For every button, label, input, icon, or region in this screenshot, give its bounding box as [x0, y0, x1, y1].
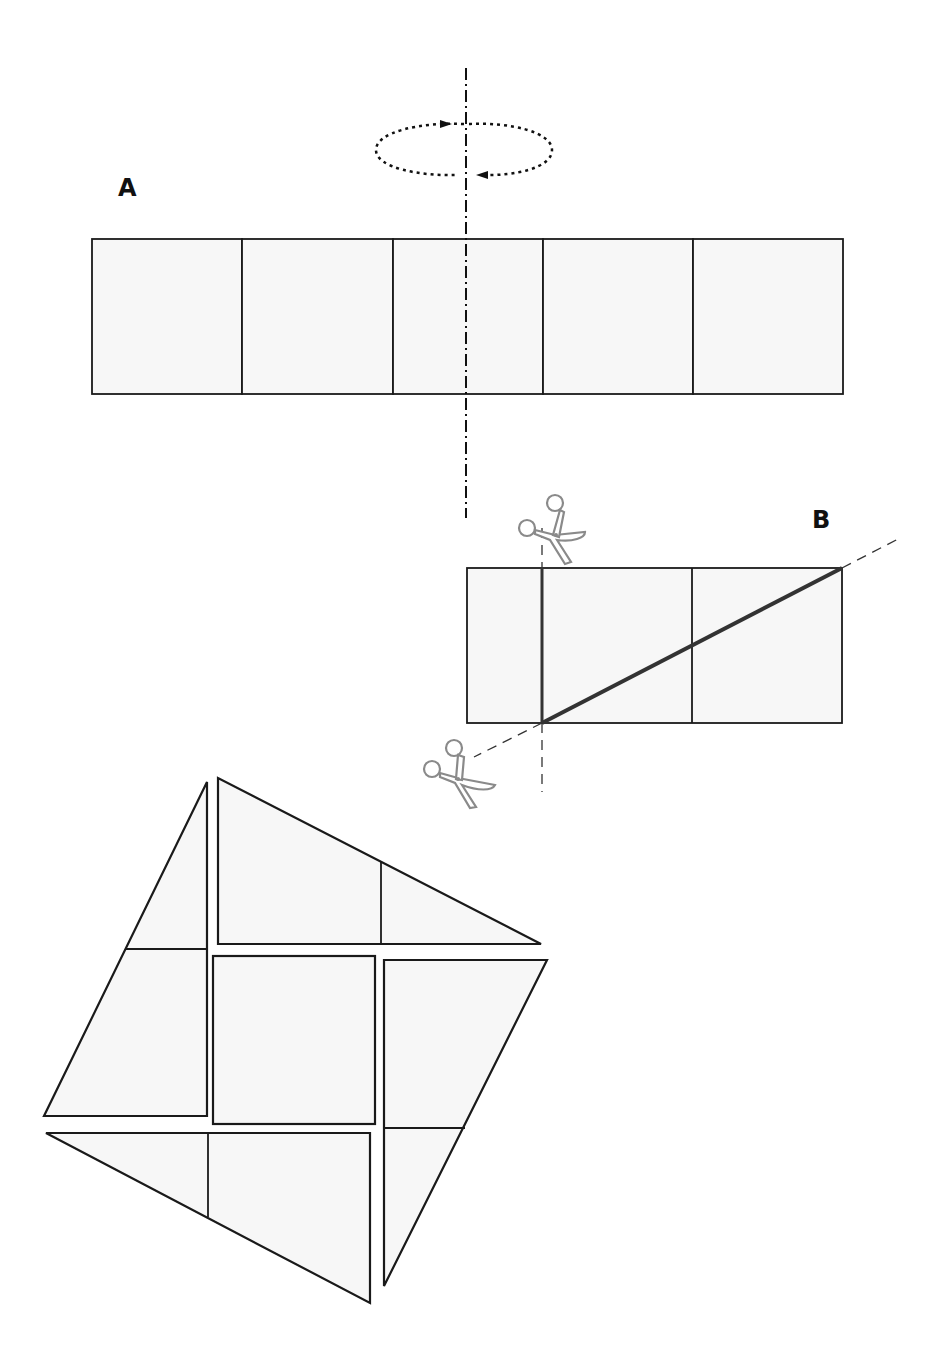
scissors-icon	[519, 495, 585, 564]
figure-b-strip	[467, 568, 842, 723]
tangram-top-triangle	[218, 778, 541, 944]
diagonal-cut-guide-top	[842, 538, 900, 568]
strip-a-square-4	[543, 239, 693, 394]
diagonal-cut-guide-bottom	[474, 723, 542, 757]
strip-a-square-1	[92, 239, 242, 394]
tangram-center-square	[213, 956, 375, 1124]
tangram-right-piece	[384, 960, 547, 1286]
scissors-icon	[424, 740, 495, 808]
rotation-arrow-icon	[376, 120, 552, 179]
diagram-svg	[0, 0, 946, 1370]
strip-a-square-5	[693, 239, 843, 394]
strip-a-square-2	[242, 239, 393, 394]
strip-a-square-3	[393, 239, 543, 394]
tangram-arrangement	[44, 778, 547, 1303]
strip-b-outline	[467, 568, 842, 723]
diagram-canvas: A B	[0, 0, 946, 1370]
figure-a-strip	[92, 239, 843, 394]
